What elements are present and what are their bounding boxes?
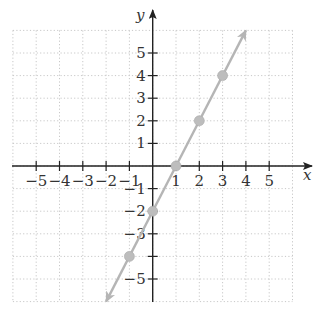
y-tick-label: −2: [124, 202, 146, 220]
y-tick-label: 5: [136, 44, 146, 62]
y-tick-label: −5: [124, 270, 146, 288]
x-tick-label: 2: [195, 172, 205, 190]
y-tick-label: 4: [136, 67, 146, 85]
axes: [12, 10, 312, 302]
x-tick-label: −3: [72, 172, 94, 190]
data-point: [124, 251, 134, 261]
y-tick-label: 3: [136, 89, 146, 107]
y-tick-label: 2: [136, 112, 146, 130]
data-point: [218, 71, 228, 81]
data-point: [194, 116, 204, 126]
coordinate-plane: −5−4−3−2−112345−5−3−2−112345 x y: [0, 0, 315, 310]
data-point: [171, 161, 181, 171]
x-axis-label: x: [303, 166, 312, 184]
y-axis-label: y: [135, 6, 145, 24]
x-tick-label: 5: [264, 172, 274, 190]
x-tick-label: 3: [218, 172, 228, 190]
y-tick-label: 1: [136, 134, 146, 152]
y-tick-label: −1: [124, 180, 146, 198]
x-tick-label: −5: [25, 172, 47, 190]
x-tick-label: 4: [241, 172, 251, 190]
data-point: [148, 206, 158, 216]
x-tick-label: −2: [95, 172, 117, 190]
x-tick-label: −4: [48, 172, 70, 190]
